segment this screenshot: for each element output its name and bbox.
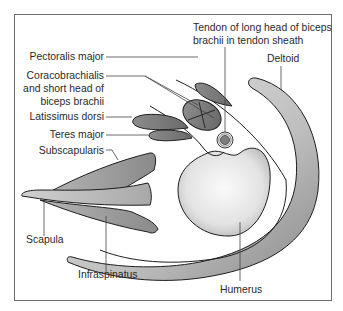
label-tendon-line2: brachii in tendon sheath (193, 35, 303, 47)
label-teres-major: Teres major (20, 129, 104, 141)
biceps-long-head-tendon (220, 135, 229, 144)
label-coracobrachialis-line2: and short head of (20, 83, 104, 95)
teres-major-shape (149, 130, 192, 141)
label-infraspinatus: Infraspinatus (78, 269, 138, 281)
label-humerus: Humerus (220, 284, 262, 296)
humerus-shape (178, 148, 270, 236)
latissimus-dorsi-shape (133, 114, 188, 129)
label-scapula: Scapula (26, 234, 64, 246)
label-pectoralis-major: Pectoralis major (20, 51, 104, 63)
label-deltoid: Deltoid (267, 53, 299, 65)
label-coracobrachialis-line1: Coracobrachialis (20, 70, 104, 82)
label-latissimus-dorsi: Latissimus dorsi (20, 111, 104, 123)
label-subscapularis: Subscapularis (20, 145, 104, 157)
label-coracobrachialis-line3: biceps brachii (20, 96, 104, 108)
label-tendon-line1: Tendon of long head of biceps (193, 22, 332, 34)
